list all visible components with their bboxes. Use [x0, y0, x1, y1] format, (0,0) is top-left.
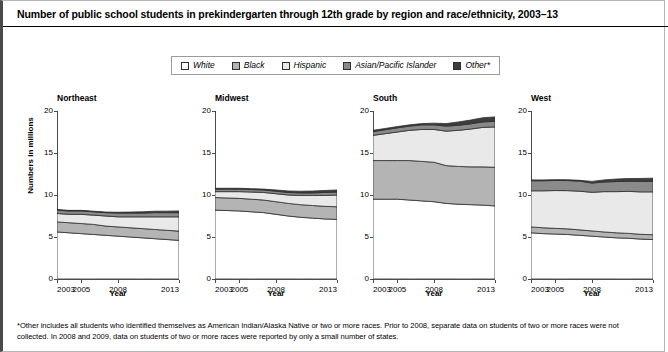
- y-tick-label: 10: [44, 191, 53, 199]
- legend-item: White: [181, 61, 215, 70]
- legend-item: Black: [232, 61, 265, 70]
- x-tick-mark: [179, 280, 180, 283]
- panel-title: Midwest: [215, 93, 249, 103]
- footnote: *Other includes all students who identif…: [17, 321, 651, 342]
- x-tick-mark: [239, 280, 240, 283]
- legend-swatch-icon: [453, 62, 461, 70]
- legend-item: Other*: [453, 61, 490, 70]
- legend-item-label: Hispanic: [294, 61, 327, 70]
- legend-swatch-icon: [282, 62, 290, 70]
- stacked-area-series: [57, 111, 179, 279]
- page-title: Number of public school students in prek…: [17, 8, 647, 21]
- x-axis-label: Year: [531, 289, 653, 298]
- panel-title: West: [531, 93, 551, 103]
- y-tick-label: 10: [360, 191, 369, 199]
- legend-swatch-icon: [181, 62, 189, 70]
- y-tick-label: 0: [49, 275, 53, 283]
- y-tick-label: 20: [360, 107, 369, 115]
- x-tick-mark: [397, 280, 398, 283]
- x-tick-mark: [373, 280, 374, 283]
- legend-swatch-icon: [232, 62, 240, 70]
- y-tick-label: 10: [202, 191, 211, 199]
- area-band: [531, 233, 653, 279]
- area-band: [215, 210, 337, 279]
- panel-title: Northeast: [57, 93, 97, 103]
- y-tick-label: 5: [49, 233, 53, 241]
- legend-item: Hispanic: [282, 61, 327, 70]
- stacked-area-series: [215, 111, 337, 279]
- legend-item: Asian/Pacific Islander: [343, 61, 436, 70]
- legend-item-label: White: [193, 61, 215, 70]
- y-tick-label: 15: [360, 149, 369, 157]
- stacked-area-series: [531, 111, 653, 279]
- panel-south: South051015202003200520082013Year: [346, 93, 498, 308]
- y-tick-label: 20: [44, 107, 53, 115]
- x-tick-mark: [81, 280, 82, 283]
- area-band: [531, 191, 653, 235]
- legend-item-label: Other*: [465, 61, 490, 70]
- y-tick-label: 15: [202, 149, 211, 157]
- x-tick-mark: [118, 280, 119, 283]
- x-tick-mark: [592, 280, 593, 283]
- x-tick-mark: [653, 280, 654, 283]
- y-tick-label: 10: [518, 191, 527, 199]
- x-tick-mark: [215, 280, 216, 283]
- panel-west: West051015202003200520082013Year: [504, 93, 656, 308]
- x-tick-mark: [531, 280, 532, 283]
- y-tick-label: 5: [523, 233, 527, 241]
- y-tick-label: 0: [207, 275, 211, 283]
- x-axis-label: Year: [215, 289, 337, 298]
- plot-area: 051015202003200520082013: [373, 111, 495, 279]
- y-tick-label: 5: [207, 233, 211, 241]
- x-axis-label: Year: [57, 289, 179, 298]
- x-tick-mark: [495, 280, 496, 283]
- legend-item-label: Asian/Pacific Islander: [355, 61, 436, 70]
- x-tick-mark: [555, 280, 556, 283]
- y-tick-label: 15: [518, 149, 527, 157]
- x-axis-label: Year: [373, 289, 495, 298]
- x-tick-mark: [57, 280, 58, 283]
- stacked-area-series: [373, 111, 495, 279]
- panel-title: South: [373, 93, 397, 103]
- x-tick-mark: [434, 280, 435, 283]
- area-band: [373, 161, 495, 206]
- area-band: [373, 199, 495, 279]
- x-tick-mark: [337, 280, 338, 283]
- chart-legend: WhiteBlackHispanicAsian/Pacific Islander…: [171, 56, 500, 75]
- plot-area: 051015202003200520082013: [57, 111, 179, 279]
- plot-area: 051015202003200520082013: [215, 111, 337, 279]
- plot-area: 051015202003200520082013: [531, 111, 653, 279]
- y-tick-label: 20: [202, 107, 211, 115]
- x-tick-mark: [276, 280, 277, 283]
- y-tick-label: 5: [365, 233, 369, 241]
- y-tick-label: 20: [518, 107, 527, 115]
- title-divider: [3, 26, 668, 27]
- panel-midwest: Midwest051015202003200520082013Year: [188, 93, 340, 308]
- y-tick-label: 0: [523, 275, 527, 283]
- legend-swatch-icon: [343, 62, 351, 70]
- y-tick-label: 15: [44, 149, 53, 157]
- y-tick-label: 0: [365, 275, 369, 283]
- legend-item-label: Black: [244, 61, 265, 70]
- panel-northeast: Northeast051015202003200520082013Year: [30, 93, 182, 308]
